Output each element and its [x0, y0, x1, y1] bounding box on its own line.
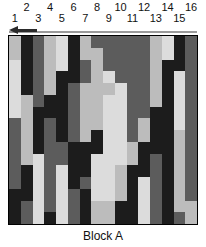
- grid-cell: [185, 154, 197, 166]
- grid-cell: [91, 83, 103, 95]
- grid-cell: [33, 71, 45, 83]
- grid-cell: [9, 60, 21, 72]
- grid-cell: [150, 177, 162, 189]
- grid-cell: [138, 36, 150, 48]
- grid-cell: [91, 118, 103, 130]
- grid-cell: [33, 177, 45, 189]
- grid-cell: [185, 71, 197, 83]
- grid-cell: [150, 189, 162, 201]
- grid-cell: [185, 95, 197, 107]
- grid-cell: [33, 48, 45, 60]
- grid-cell: [174, 154, 186, 166]
- grid-cell: [127, 212, 139, 224]
- grid-cell: [21, 154, 33, 166]
- column-label-13: 13: [148, 12, 164, 24]
- grid-cell: [33, 36, 45, 48]
- grid-cell: [174, 60, 186, 72]
- grid-cell: [68, 142, 80, 154]
- grid-cell: [115, 142, 127, 154]
- grid-cell: [162, 201, 174, 213]
- grid-cell: [9, 36, 21, 48]
- grid-cell: [150, 142, 162, 154]
- grid-cell: [91, 154, 103, 166]
- grid-cell: [80, 60, 92, 72]
- grid-cell: [56, 201, 68, 213]
- grid-cell: [68, 201, 80, 213]
- grid-cell: [21, 48, 33, 60]
- grid-cell: [127, 107, 139, 119]
- grid-cell: [80, 95, 92, 107]
- grid-cell: [138, 95, 150, 107]
- grid-cell: [138, 60, 150, 72]
- grid-cell: [115, 201, 127, 213]
- grid-cell: [150, 71, 162, 83]
- grid-cell: [9, 154, 21, 166]
- grid-cell: [138, 118, 150, 130]
- grid-cell: [21, 83, 33, 95]
- grid-cell: [44, 142, 56, 154]
- grid-cell: [185, 107, 197, 119]
- grid-cell: [174, 212, 186, 224]
- column-label-9: 9: [101, 12, 117, 24]
- grid-cell: [44, 154, 56, 166]
- grid-cell: [138, 201, 150, 213]
- grid-cell: [33, 142, 45, 154]
- grid-cell: [138, 130, 150, 142]
- grid-cell: [80, 130, 92, 142]
- grid-cell: [68, 107, 80, 119]
- grid-cell: [162, 154, 174, 166]
- grid-cell: [56, 83, 68, 95]
- grid-cell: [44, 107, 56, 119]
- grid-cell: [68, 118, 80, 130]
- grid-cell: [150, 36, 162, 48]
- grid-cell: [33, 130, 45, 142]
- grid-cell: [162, 189, 174, 201]
- grid-cell: [91, 165, 103, 177]
- grid-cell: [9, 95, 21, 107]
- grid-cell: [138, 212, 150, 224]
- grid-cell: [162, 83, 174, 95]
- grid-cell: [68, 212, 80, 224]
- grid-cell: [115, 212, 127, 224]
- grid-cell: [185, 130, 197, 142]
- grid-cell: [103, 83, 115, 95]
- grid-cell: [150, 201, 162, 213]
- grid-cell: [91, 177, 103, 189]
- grid-cell: [127, 201, 139, 213]
- grid-cell: [174, 36, 186, 48]
- grid-cell: [174, 189, 186, 201]
- grid-cell: [115, 130, 127, 142]
- grid-cell: [80, 36, 92, 48]
- grid-cell: [103, 107, 115, 119]
- grid-cell: [68, 189, 80, 201]
- grid-cell: [80, 154, 92, 166]
- grid-cell: [56, 36, 68, 48]
- grid-cell: [162, 165, 174, 177]
- grid-cell: [56, 118, 68, 130]
- grid-cell: [127, 95, 139, 107]
- grid-cell: [150, 165, 162, 177]
- grid-cell: [91, 212, 103, 224]
- grid-cell: [91, 189, 103, 201]
- grid-cell: [115, 107, 127, 119]
- grid-cell: [80, 177, 92, 189]
- grid-cell: [44, 83, 56, 95]
- grid-cell: [68, 154, 80, 166]
- grid-cell: [80, 83, 92, 95]
- grid-cell: [162, 95, 174, 107]
- grid-cell: [150, 95, 162, 107]
- grid-cell: [33, 95, 45, 107]
- grid-cell: [91, 60, 103, 72]
- grid-cell: [21, 189, 33, 201]
- grid-cell: [103, 130, 115, 142]
- grid-cell: [150, 212, 162, 224]
- grid-cell: [33, 107, 45, 119]
- grid-cell: [91, 95, 103, 107]
- grid-cell: [103, 36, 115, 48]
- grid-cell: [185, 177, 197, 189]
- grid-cell: [80, 107, 92, 119]
- grid-cell: [185, 118, 197, 130]
- grid-cell: [44, 95, 56, 107]
- grid-cell: [174, 71, 186, 83]
- grid-cell: [185, 189, 197, 201]
